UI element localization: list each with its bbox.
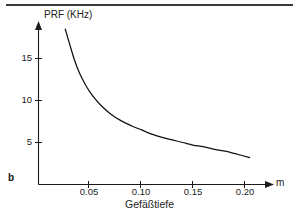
plot-area [0, 0, 299, 218]
y-axis-arrowhead-icon [35, 21, 42, 30]
prf-decay-curve [65, 29, 249, 158]
x-axis-arrowhead-icon [265, 181, 274, 188]
figure-panel: b PRF (KHz) m Gefäßtiefe 15 10 5 0.05 0.… [0, 0, 299, 218]
